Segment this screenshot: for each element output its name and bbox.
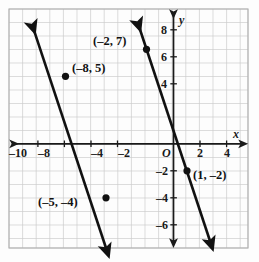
point-label-neg8-5: (–8, 5) (72, 62, 105, 75)
x-tick-label-neg4: –4 (91, 147, 103, 159)
y-axis-label: y (179, 14, 184, 26)
x-tick-label-neg8: –8 (38, 147, 50, 159)
x-tick-label-neg2: –2 (118, 147, 130, 159)
y-tick-label-pos6: 6 (161, 51, 167, 63)
point-neg8-5 (62, 73, 69, 80)
x-tick-label-pos2: 2 (197, 147, 203, 159)
y-tick-label-neg6: –6 (156, 219, 168, 231)
point-neg2-7 (143, 46, 150, 53)
origin-label: O (162, 147, 171, 159)
point-label-1-neg2: (1, –2) (193, 169, 226, 182)
point-neg5-neg4 (102, 194, 109, 201)
plot-background (9, 9, 248, 248)
y-tick-label-pos4: 4 (161, 78, 167, 90)
point-1-neg2 (183, 167, 190, 174)
y-tick-label-neg4: –4 (156, 192, 168, 204)
x-axis-label: x (233, 128, 239, 140)
point-label-neg5-neg4: (–5, –4) (38, 196, 78, 209)
coordinate-plane-figure: –10 –8 –4 –2 2 4 8 6 4 –2 –4 –6 O x y (–… (0, 0, 259, 262)
x-tick-label-neg10: –10 (9, 147, 27, 159)
graph-canvas (0, 0, 259, 262)
y-tick-label-pos8: 8 (161, 24, 167, 36)
point-label-neg2-7: (–2, 7) (93, 35, 126, 48)
y-tick-label-neg2: –2 (156, 165, 168, 177)
x-tick-label-pos4: 4 (224, 147, 230, 159)
